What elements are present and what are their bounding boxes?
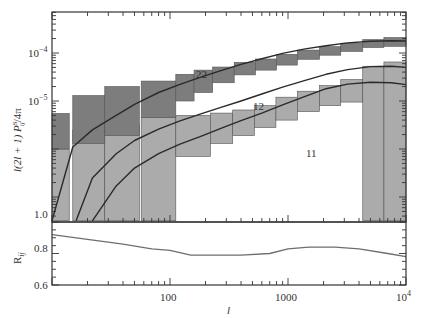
- error-boxes: [52, 38, 406, 221]
- y-tick-label-1-0: 1.0: [34, 208, 48, 220]
- error-box-22: [141, 81, 176, 118]
- error-box-22: [176, 74, 194, 101]
- y-axis-label-lower: Rij: [11, 251, 26, 264]
- y-tick-label-0-6: 0.6: [34, 279, 48, 291]
- ratio-curve: [52, 235, 406, 257]
- x-tick-label-100: 100: [160, 291, 177, 303]
- error-box-22: [234, 62, 255, 75]
- error-box-11_12: [363, 66, 384, 221]
- lower-panel-frame: [52, 222, 406, 285]
- error-box-11_12: [141, 118, 176, 221]
- curve-label-11: 11: [306, 147, 317, 159]
- error-box-11_12: [297, 91, 319, 111]
- error-box-22: [52, 113, 69, 149]
- ratio-line: [52, 235, 406, 257]
- error-box-11_12: [105, 125, 140, 221]
- curve-label-22: 22: [196, 68, 207, 80]
- x-tick-label-1e4: 104: [396, 289, 411, 303]
- error-box-22: [320, 47, 341, 56]
- y-tick-label-1e-5: 10−5: [28, 93, 48, 107]
- error-box-22: [73, 96, 105, 144]
- error-box-11_12: [320, 86, 341, 106]
- error-box-11_12: [176, 115, 211, 156]
- x-tick-label-1000: 1000: [275, 291, 298, 303]
- curve-label-12: 12: [253, 100, 264, 112]
- x-axis-label: l: [227, 304, 230, 316]
- error-box-22: [341, 43, 363, 51]
- error-box-22: [255, 59, 276, 70]
- error-box-22: [277, 54, 298, 65]
- y-tick-label-0-8: 0.8: [34, 242, 48, 254]
- y-tick-label-1e-4: 10−4: [28, 45, 48, 59]
- power-spectrum-chart: 22 12 11 10−4 10−5 1.0 0.8 0.6 100 1000 …: [0, 0, 423, 318]
- error-box-22: [297, 50, 319, 59]
- y-axis-label-upper: l(2l + 1) PSij/4π: [11, 108, 26, 172]
